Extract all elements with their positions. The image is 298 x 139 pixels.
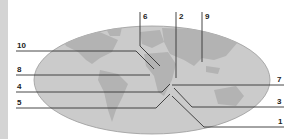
label-2: 2 <box>179 13 183 21</box>
label-6: 6 <box>143 13 147 21</box>
label-7: 7 <box>277 76 281 84</box>
label-4: 4 <box>17 83 21 91</box>
label-9: 9 <box>205 13 209 21</box>
label-5: 5 <box>17 99 21 107</box>
label-8: 8 <box>17 66 21 74</box>
label-10: 10 <box>17 42 26 50</box>
label-1: 1 <box>278 118 282 126</box>
world-map <box>0 0 298 139</box>
label-3: 3 <box>277 98 281 106</box>
